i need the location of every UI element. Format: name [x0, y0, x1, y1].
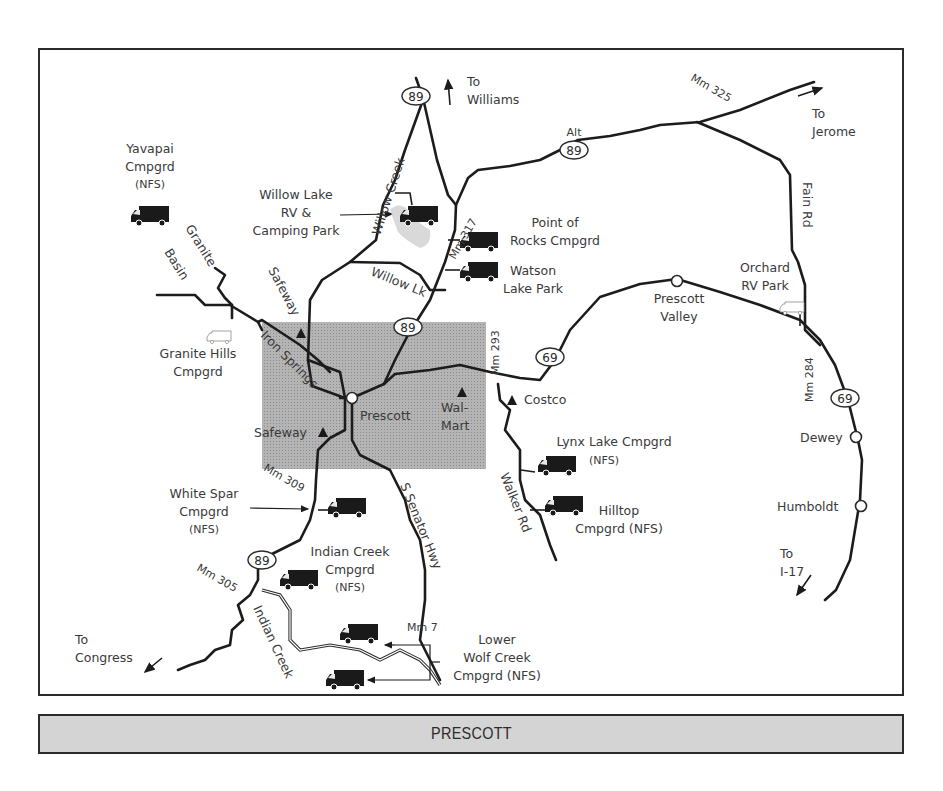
hwy-shield-89-north: 89 [402, 87, 430, 105]
svg-text:Camping Park: Camping Park [253, 223, 341, 238]
svg-text:Hilltop: Hilltop [599, 503, 639, 518]
svg-text:89: 89 [400, 321, 415, 335]
store-label-walmart-1: Wal- [441, 400, 468, 415]
svg-text:Cmpgrd (NFS): Cmpgrd (NFS) [453, 668, 541, 683]
svg-text:Lake Park: Lake Park [503, 281, 564, 296]
milepost-7: Mm 7 [407, 621, 438, 634]
rv-icon-watson-lake [460, 262, 498, 282]
svg-text:RV Park: RV Park [741, 278, 789, 293]
store-label-walmart-2: Mart [441, 418, 470, 433]
campground-hilltop: Hilltop Cmpgrd (NFS) [575, 503, 663, 536]
prescott-area-map: 89 89 89 69 69 89 Alt To Williams To Jer… [0, 0, 943, 791]
road-label-s-senator-hwy: S Senator Hwy [397, 481, 446, 572]
svg-text:Lower: Lower [478, 632, 516, 647]
svg-text:Orchard: Orchard [740, 260, 790, 275]
store-label-costco: Costco [524, 392, 566, 407]
svg-text:White Spar: White Spar [170, 486, 240, 501]
svg-text:(NFS): (NFS) [135, 178, 165, 191]
campground-white-spar: White Spar Cmpgrd (NFS) [170, 486, 240, 536]
svg-text:(NFS): (NFS) [589, 454, 619, 467]
svg-text:Cmpgrd: Cmpgrd [125, 159, 175, 174]
svg-text:Rocks Cmpgrd: Rocks Cmpgrd [510, 233, 600, 248]
svg-text:89: 89 [408, 90, 423, 104]
svg-text:Lynx Lake Cmpgrd: Lynx Lake Cmpgrd [556, 434, 671, 449]
map-title-band: PRESCOTT [38, 714, 904, 754]
campground-watson-lake: Watson Lake Park [503, 263, 564, 296]
store-label-safeway-south: Safeway [254, 425, 308, 440]
hwy-shield-alt-89: 89 [560, 141, 588, 159]
alt-label: Alt [567, 126, 583, 139]
hwy-shield-89-central: 89 [394, 318, 422, 336]
direction-jerome-line1: To [811, 106, 825, 121]
town-label-prescott-valley: Prescott Valley [654, 291, 705, 324]
town-label-humboldt: Humboldt [777, 499, 838, 514]
town-marker-prescott [347, 393, 358, 404]
rv-icon-yavapai [131, 206, 169, 226]
rv-icon-lower-wolf-creek-2 [326, 670, 364, 690]
svg-text:Cmpgrd: Cmpgrd [173, 364, 223, 379]
road-label-granite: Granite [182, 222, 220, 270]
campground-yavapai: Yavapai Cmpgrd (NFS) [125, 141, 175, 191]
milepost-305: Mm 305 [195, 561, 240, 595]
svg-text:69: 69 [542, 351, 557, 365]
svg-text:Prescott: Prescott [654, 291, 705, 306]
road-label-safeway: Safeway [265, 264, 303, 318]
road-label-fain-rd: Fain Rd [800, 182, 815, 228]
hwy-shield-69-east: 69 [831, 389, 859, 407]
direction-williams-line1: To [466, 74, 480, 89]
rv-icon-hilltop [545, 496, 583, 516]
campground-granite-hills: Granite Hills Cmpgrd [160, 346, 237, 379]
svg-text:89: 89 [254, 554, 269, 568]
svg-text:Cmpgrd (NFS): Cmpgrd (NFS) [575, 521, 663, 536]
store-icon-costco [507, 395, 517, 405]
hwy-shield-69-west: 69 [536, 348, 564, 366]
campground-lower-wolf-creek: Lower Wolf Creek Cmpgrd (NFS) [453, 632, 541, 683]
campground-point-of-rocks: Point of Rocks Cmpgrd [510, 215, 600, 248]
rv-icon-orchard-rv [780, 302, 804, 315]
rv-icon-white-spar [328, 498, 366, 518]
svg-text:Cmpgrd: Cmpgrd [179, 504, 229, 519]
direction-congress-line2: Congress [75, 650, 133, 665]
rv-icon-indian-creek [280, 570, 318, 590]
campground-orchard-rv: Orchard RV Park [740, 260, 790, 293]
campground-indian-creek: Indian Creek Cmpgrd (NFS) [311, 544, 391, 594]
direction-williams-line2: Williams [467, 92, 519, 107]
svg-text:Willow Lake: Willow Lake [259, 187, 333, 202]
svg-text:Granite Hills: Granite Hills [160, 346, 237, 361]
svg-text:(NFS): (NFS) [189, 523, 219, 536]
svg-text:69: 69 [837, 392, 852, 406]
town-marker-prescott-valley [672, 276, 683, 287]
town-label-prescott: Prescott [360, 408, 411, 423]
rv-icon-lower-wolf-creek-1 [340, 624, 378, 644]
milepost-325: Mm 325 [689, 71, 734, 105]
prescott-city-area [262, 322, 486, 469]
rv-icon-lynx-lake [538, 456, 576, 476]
direction-congress-line1: To [74, 632, 88, 647]
svg-text:Cmpgrd: Cmpgrd [325, 562, 375, 577]
svg-text:(NFS): (NFS) [335, 581, 365, 594]
svg-text:Point of: Point of [531, 215, 579, 230]
svg-text:Valley: Valley [660, 309, 698, 324]
svg-text:Wolf Creek: Wolf Creek [463, 650, 531, 665]
svg-text:Indian Creek: Indian Creek [311, 544, 391, 559]
map-title: PRESCOTT [431, 724, 512, 744]
svg-text:RV &: RV & [281, 205, 312, 220]
town-marker-humboldt [856, 501, 867, 512]
direction-i17-line1: To [779, 546, 793, 561]
svg-text:Yavapai: Yavapai [125, 141, 174, 156]
campground-willow-lake-rv: Willow Lake RV & Camping Park [253, 187, 341, 238]
svg-text:89: 89 [566, 144, 581, 158]
direction-jerome-line2: Jerome [811, 124, 856, 139]
milepost-284: Mm 284 [803, 357, 816, 402]
town-label-dewey: Dewey [800, 430, 843, 445]
milepost-293: Mm 293 [489, 330, 502, 375]
town-marker-dewey [851, 432, 862, 443]
road-label-willow-lk: Willow Lk [369, 264, 430, 300]
direction-i17-line2: I-17 [780, 564, 804, 579]
rv-icon-granite-hills [207, 331, 231, 344]
hwy-shield-89-south: 89 [248, 551, 276, 569]
svg-text:Watson: Watson [510, 263, 556, 278]
road-label-basin: Basin [161, 246, 192, 283]
